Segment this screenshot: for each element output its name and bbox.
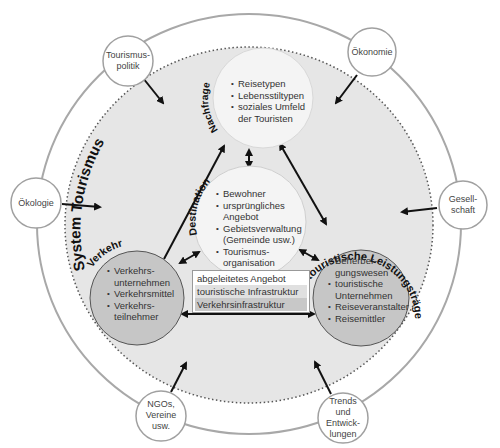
derived-offer-box: abgeleitetes Angebot touristische Infras… bbox=[192, 270, 310, 313]
derived-offer-title: abgeleitetes Angebot bbox=[195, 272, 307, 285]
list-item: Verkehrs-unternehmen bbox=[107, 265, 177, 288]
list-item: Beherber-gungswesen bbox=[328, 255, 402, 278]
nachfrage-list: Reisetypen Lebensstiltypen soziales Umfe… bbox=[231, 78, 311, 124]
list-item: Lebensstiltypen bbox=[231, 90, 311, 102]
label-oekologie: Ökologie bbox=[11, 198, 61, 209]
list-item: Reisetypen bbox=[231, 78, 311, 90]
label-oekonomie: Ökonomie bbox=[347, 47, 397, 58]
destination-list: Bewohner ursprüngliches Angebot Gebietsv… bbox=[216, 188, 300, 269]
leistungstraeger-list: Beherber-gungswesen touristische Unterne… bbox=[328, 255, 402, 324]
list-item: Reisemittler bbox=[328, 313, 402, 325]
tourist-infrastructure: touristische Infrastruktur bbox=[195, 285, 307, 298]
label-tourismuspolitik: Tourismus- politik bbox=[103, 50, 153, 72]
list-item: Bewohner bbox=[216, 188, 300, 200]
list-item: ursprüngliches Angebot bbox=[216, 200, 300, 223]
list-item: Verkehrsmittel bbox=[107, 288, 177, 300]
list-item: Tourismus-organisation bbox=[216, 246, 300, 269]
list-item: Gebietsverwaltung (Gemeinde usw.) bbox=[216, 223, 300, 246]
verkehr-list: Verkehrs-unternehmen Verkehrsmittel Verk… bbox=[107, 265, 177, 323]
transport-infrastructure: Verkehrsinfrastruktur bbox=[195, 298, 307, 311]
list-item: soziales Umfeld der Touristen bbox=[231, 101, 311, 124]
list-item: touristische Unternehmen bbox=[328, 278, 402, 301]
label-gesellschaft: Gesell- schaft bbox=[438, 194, 488, 216]
label-ngos: NGOs, Vereine usw. bbox=[136, 399, 186, 432]
list-item: Verkehrs-teilnehmer bbox=[107, 300, 177, 323]
label-trends: Trends und Entwick- lungen bbox=[318, 396, 368, 440]
list-item: Reiseveranstalter bbox=[328, 301, 402, 313]
